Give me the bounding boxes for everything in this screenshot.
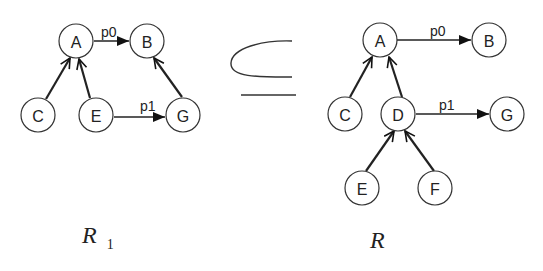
svg-text:C: C (339, 107, 351, 124)
edge-F-D (405, 131, 434, 171)
caption-main: R (82, 222, 97, 248)
svg-text:F: F (430, 181, 440, 198)
node-C: C (328, 97, 362, 131)
edge-C-A (46, 58, 70, 99)
svg-text:D: D (392, 107, 404, 124)
svg-text:B: B (484, 33, 495, 50)
left-graph-caption: R1 (82, 222, 114, 253)
node-D: D (381, 97, 415, 131)
caption-subscript: 1 (107, 237, 114, 252)
svg-text:C: C (32, 108, 44, 125)
node-C: C (21, 98, 55, 132)
node-A: A (363, 23, 397, 57)
edge-label-p0: p0 (430, 23, 446, 39)
node-B: B (130, 24, 164, 58)
node-E: E (345, 171, 379, 205)
edge-label-p1: p1 (439, 97, 455, 113)
node-B: B (472, 23, 506, 57)
edge-label-p1: p1 (140, 98, 156, 114)
edge-label-p0: p0 (101, 24, 117, 40)
svg-text:A: A (71, 34, 82, 51)
subset-symbol (231, 41, 296, 95)
node-G: G (166, 98, 200, 132)
edge-E-A (79, 59, 90, 98)
left-graph: p0 p1 A B C E G (21, 24, 200, 132)
svg-text:A: A (375, 33, 386, 50)
edge-E-D (366, 131, 394, 171)
node-E: E (79, 98, 113, 132)
edge-C-A (350, 57, 372, 97)
node-G: G (490, 97, 524, 131)
node-F: F (418, 171, 452, 205)
svg-text:E: E (91, 108, 102, 125)
svg-text:G: G (501, 107, 513, 124)
edge-G-B (154, 58, 182, 97)
svg-text:B: B (142, 34, 153, 51)
svg-text:G: G (177, 108, 189, 125)
node-A: A (59, 24, 93, 58)
right-graph: p0 p1 A B C D G E F (328, 23, 524, 205)
right-graph-caption: R (370, 227, 385, 254)
edge-D-A (389, 57, 402, 97)
svg-text:E: E (357, 181, 368, 198)
caption-main: R (370, 227, 385, 253)
